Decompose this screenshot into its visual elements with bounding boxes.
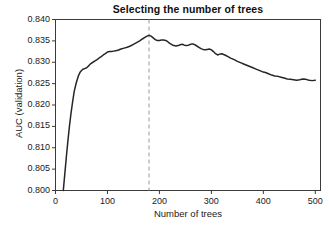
x-axis-tick-label: 300 [191,196,231,206]
x-axis-tick-label: 100 [87,196,127,206]
x-axis-label: Number of trees [55,208,321,219]
x-axis-tick-label: 0 [36,196,76,206]
x-axis-tick-label: 200 [139,196,179,206]
x-axis-tick-labels: 0100200300400500 [0,0,329,229]
chart-figure: Selecting the number of trees AUC (valid… [0,0,329,229]
x-axis-tick-label: 400 [243,196,283,206]
x-axis-tick-label: 500 [295,196,329,206]
